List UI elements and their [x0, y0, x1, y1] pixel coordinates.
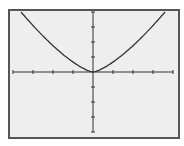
function-plot: [0, 0, 184, 146]
